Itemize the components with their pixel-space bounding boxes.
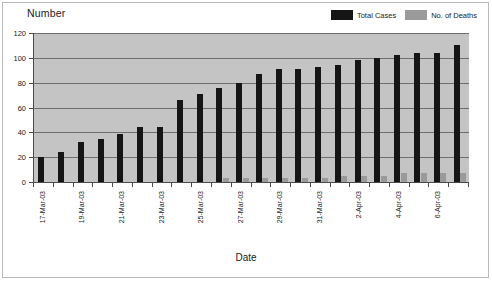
x-tick-mark bbox=[132, 182, 133, 187]
y-tick-label: 80 bbox=[2, 78, 26, 87]
x-tick-label-wrap: 31-Mar-03 bbox=[315, 191, 325, 239]
y-tick-label: 0 bbox=[2, 178, 26, 187]
x-tick-mark bbox=[409, 182, 410, 187]
x-tick-label: 25-Mar-03 bbox=[196, 191, 206, 223]
x-tick-label-wrap: 17-Mar-03 bbox=[38, 191, 48, 239]
y-tick-label: 40 bbox=[2, 128, 26, 137]
bar-total-cases bbox=[276, 69, 282, 182]
x-tick-mark bbox=[290, 182, 291, 187]
x-tick-label-wrap: 4-Apr-03 bbox=[394, 191, 404, 239]
x-tick-label-wrap: 27-Mar-03 bbox=[236, 191, 246, 239]
bar-slot bbox=[311, 33, 331, 182]
bar-slot bbox=[212, 33, 232, 182]
bar-no-of-deaths bbox=[401, 173, 407, 182]
bar-total-cases bbox=[315, 67, 321, 182]
bar-slot bbox=[34, 33, 54, 182]
bar-total-cases bbox=[295, 69, 301, 182]
x-tick-mark bbox=[270, 182, 271, 187]
x-tick-mark bbox=[53, 182, 54, 187]
bar-no-of-deaths bbox=[440, 173, 446, 182]
x-tick-mark bbox=[92, 182, 93, 187]
x-tick-mark bbox=[73, 182, 74, 187]
x-tick-label-wrap: 23-Mar-03 bbox=[157, 191, 167, 239]
bar-slot bbox=[133, 33, 153, 182]
x-tick-mark bbox=[171, 182, 172, 187]
bar-total-cases bbox=[394, 55, 400, 182]
bar-slot bbox=[271, 33, 291, 182]
legend-label: Total Cases bbox=[357, 11, 396, 20]
x-tick-mark bbox=[33, 182, 34, 187]
x-tick-label-wrap: 19-Mar-03 bbox=[77, 191, 87, 239]
bar-no-of-deaths bbox=[460, 173, 466, 182]
bar-total-cases bbox=[177, 100, 183, 182]
y-tick-label: 60 bbox=[2, 103, 26, 112]
y-axis-caption: Number bbox=[27, 7, 66, 19]
legend-swatch-icon bbox=[405, 10, 427, 20]
legend-swatch-icon bbox=[331, 10, 353, 20]
x-tick-label-wrap: 2-Apr-03 bbox=[354, 191, 364, 239]
bar-total-cases bbox=[137, 127, 143, 182]
bar-total-cases bbox=[414, 53, 420, 182]
x-tick-label: 17-Mar-03 bbox=[38, 191, 48, 223]
x-tick-mark bbox=[152, 182, 153, 187]
bar-slot bbox=[54, 33, 74, 182]
x-tick-label: 31-Mar-03 bbox=[315, 191, 325, 223]
bar-slot bbox=[429, 33, 449, 182]
x-tick-mark bbox=[468, 182, 469, 187]
plot-area bbox=[33, 33, 469, 182]
bar-slot bbox=[370, 33, 390, 182]
y-tick-label: 100 bbox=[2, 53, 26, 62]
chart-legend: Total CasesNo. of Deaths bbox=[331, 10, 477, 20]
x-tick-mark bbox=[191, 182, 192, 187]
bar-total-cases bbox=[216, 88, 222, 182]
x-tick-label: 4-Apr-03 bbox=[394, 191, 404, 218]
bar-total-cases bbox=[335, 65, 341, 182]
bar-slot bbox=[410, 33, 430, 182]
bar-slot bbox=[252, 33, 272, 182]
bar-total-cases bbox=[454, 45, 460, 182]
x-tick-mark bbox=[349, 182, 350, 187]
bar-total-cases bbox=[98, 139, 104, 182]
x-tick-mark bbox=[231, 182, 232, 187]
x-tick-label: 6-Apr-03 bbox=[433, 191, 443, 218]
y-tick-label: 120 bbox=[2, 29, 26, 38]
x-tick-label-wrap: 21-Mar-03 bbox=[117, 191, 127, 239]
x-axis-caption: Date bbox=[0, 252, 492, 263]
x-tick-mark bbox=[448, 182, 449, 187]
x-tick-label-wrap: 29-Mar-03 bbox=[275, 191, 285, 239]
x-tick-mark bbox=[310, 182, 311, 187]
bar-no-of-deaths bbox=[421, 173, 427, 182]
bar-slot bbox=[153, 33, 173, 182]
x-tick-label: 29-Mar-03 bbox=[275, 191, 285, 223]
bar-slot bbox=[350, 33, 370, 182]
x-tick-mark bbox=[251, 182, 252, 187]
x-tick-mark bbox=[428, 182, 429, 187]
x-tick-mark bbox=[369, 182, 370, 187]
bar-slot bbox=[172, 33, 192, 182]
legend-item: Total Cases bbox=[331, 10, 396, 20]
bar-total-cases bbox=[78, 142, 84, 182]
x-tick-label-wrap: 6-Apr-03 bbox=[433, 191, 443, 239]
bar-total-cases bbox=[434, 53, 440, 182]
bar-slot bbox=[113, 33, 133, 182]
legend-item: No. of Deaths bbox=[405, 10, 477, 20]
bar-total-cases bbox=[236, 83, 242, 182]
x-tick-label: 23-Mar-03 bbox=[157, 191, 167, 223]
x-tick-label: 19-Mar-03 bbox=[77, 191, 87, 223]
bar-total-cases bbox=[117, 134, 123, 182]
x-tick-mark bbox=[112, 182, 113, 187]
bar-total-cases bbox=[157, 127, 163, 182]
bar-total-cases bbox=[197, 94, 203, 182]
bar-group bbox=[34, 33, 469, 182]
bar-total-cases bbox=[256, 74, 262, 182]
bar-slot bbox=[390, 33, 410, 182]
x-tick-label: 21-Mar-03 bbox=[117, 191, 127, 223]
x-tick-mark bbox=[330, 182, 331, 187]
bar-slot bbox=[93, 33, 113, 182]
x-tick-mark bbox=[389, 182, 390, 187]
bar-total-cases bbox=[355, 60, 361, 182]
bar-slot bbox=[74, 33, 94, 182]
x-tick-label-wrap: 25-Mar-03 bbox=[196, 191, 206, 239]
x-tick-label: 2-Apr-03 bbox=[354, 191, 364, 218]
bar-slot bbox=[449, 33, 469, 182]
